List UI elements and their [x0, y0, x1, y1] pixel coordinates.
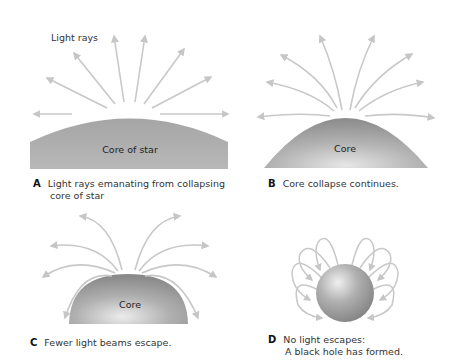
caption-a-line2: core of star: [33, 190, 233, 202]
caption-c: CFewer light beams escape.: [30, 337, 230, 349]
core-label-a: Core of star: [80, 144, 180, 155]
caption-d-line2: A black hole has formed.: [268, 346, 453, 358]
panel-letter-c: C: [30, 337, 37, 348]
light-rays-annotation: Light rays: [51, 32, 98, 43]
panel-letter-d: D: [268, 334, 276, 345]
black-hole-sphere: [316, 264, 374, 322]
caption-d: DNo light escapes: A black hole has form…: [268, 334, 453, 357]
caption-b-line1: Core collapse continues.: [283, 178, 399, 189]
caption-d-line1: No light escapes:: [283, 334, 365, 345]
caption-a-line1: Light rays emanating from collapsing: [48, 178, 225, 189]
light-rays-a: [34, 36, 228, 114]
panel-letter-b: B: [268, 178, 276, 189]
caption-c-line1: Fewer light beams escape.: [44, 337, 171, 348]
caption-a: ALight rays emanating from collapsing co…: [33, 178, 233, 201]
panel-letter-a: A: [33, 178, 41, 189]
core-label-b: Core: [315, 143, 375, 154]
core-label-c: Core: [100, 299, 160, 310]
caption-b: BCore collapse continues.: [268, 178, 453, 190]
panel-d-figure: [292, 238, 398, 322]
light-rays-b: [258, 36, 434, 118]
